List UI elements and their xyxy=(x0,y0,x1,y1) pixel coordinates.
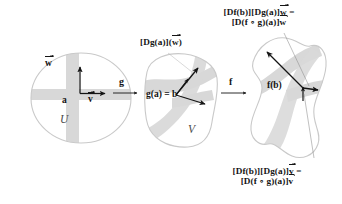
annotation-top-right-line2: [D(f ∘ g)(a)]w xyxy=(184,17,334,27)
annotation-bottom-right: [Df(b)][Dg(a)]v = [D(f ∘ g)(a)]v xyxy=(192,166,342,187)
region-w-bands xyxy=(250,44,327,172)
map-f-label: f xyxy=(229,76,232,87)
vector-v-label: v xyxy=(88,94,93,105)
map-g-label: g xyxy=(119,76,124,87)
annotation-bottom-right-line1: [Df(b)][Dg(a)]v = xyxy=(192,166,342,176)
point-b-label: g(a) = b xyxy=(146,89,177,100)
annotation-top-right: [Df(b)][Dg(a)]w = [D(f ∘ g)(a)]w xyxy=(184,7,334,28)
figure-canvas: w a v U g [Dg(a)](w) g(a) = b V f f(b) [… xyxy=(0,0,342,204)
leader-line-bottom xyxy=(304,94,314,158)
vector-w-label: w xyxy=(45,58,52,69)
dg-applied-to-w-label: [Dg(a)](w) xyxy=(140,37,182,47)
leader-line-dgw xyxy=(168,53,192,72)
annotation-top-right-line1: [Df(b)][Dg(a)]w = xyxy=(184,7,334,17)
region-v-label: V xyxy=(188,123,195,136)
annotation-bottom-right-line2: [D(f ∘ g)(a)]v xyxy=(192,176,342,186)
region-u-label: U xyxy=(60,113,68,126)
point-fb-label: f(b) xyxy=(267,80,282,91)
point-a-label: a xyxy=(62,95,67,106)
